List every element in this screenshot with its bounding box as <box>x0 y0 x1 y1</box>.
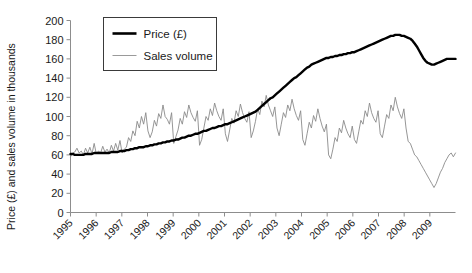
x-tick-label: 2001 <box>204 216 229 241</box>
y-tick-label: 20 <box>51 187 63 199</box>
y-tick-label: 180 <box>45 34 63 46</box>
x-tick-label: 2002 <box>230 216 255 241</box>
y-tick-label: 60 <box>51 149 63 161</box>
legend-box <box>104 18 217 71</box>
chart-legend: Price (£)Sales volume <box>104 18 217 71</box>
x-tick-label: 2006 <box>332 216 357 241</box>
y-tick-label: 120 <box>45 91 63 103</box>
y-tick-label: 40 <box>51 168 63 180</box>
legend-label: Sales volume <box>144 50 213 62</box>
y-tick-label: 0 <box>57 207 63 219</box>
y-tick-label: 160 <box>45 53 63 65</box>
chart-svg: 0204060801001201401601802001995199619971… <box>0 0 472 273</box>
x-tick-label: 2009 <box>409 216 434 241</box>
x-tick-label: 2004 <box>281 216 306 241</box>
x-tick-label: 1998 <box>127 216 152 241</box>
x-tick-label: 2007 <box>358 216 383 241</box>
x-tick-label: 2003 <box>255 216 280 241</box>
x-tick-label: 1999 <box>153 216 178 241</box>
y-tick-label: 140 <box>45 72 63 84</box>
x-tick-label: 2008 <box>384 216 409 241</box>
x-tick-label: 1995 <box>50 216 75 241</box>
y-tick-label: 100 <box>45 111 63 123</box>
y-tick-label: 200 <box>45 15 63 27</box>
x-tick-label: 1996 <box>76 216 101 241</box>
series-line <box>71 95 456 187</box>
x-tick-label: 2000 <box>178 216 203 241</box>
legend-label: Price (£) <box>144 28 188 40</box>
x-tick-label: 1997 <box>101 216 126 241</box>
x-tick-label: 2005 <box>307 216 332 241</box>
chart-container: Price (£) and sales volume in thousands … <box>0 0 472 273</box>
plot-area-wrapper: 0204060801001201401601802001995199619971… <box>0 0 472 273</box>
y-tick-label: 80 <box>51 130 63 142</box>
